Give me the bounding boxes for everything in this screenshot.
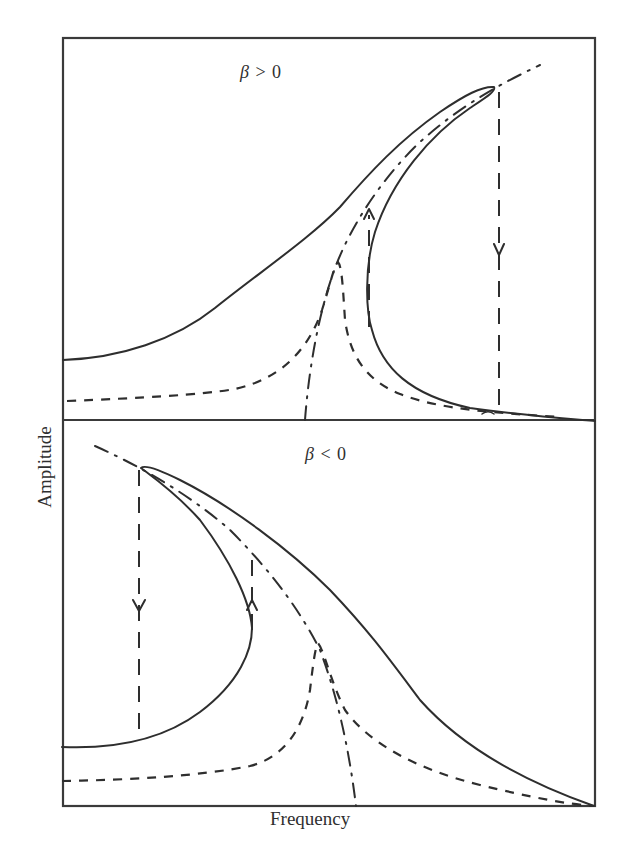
beta-relation: < 0 — [315, 444, 347, 464]
panel-softening — [62, 446, 594, 806]
panel-label-beta-positive: β > 0 — [240, 62, 282, 83]
frequency-response-figure: β > 0 β < 0 Amplitude Frequency — [0, 0, 632, 861]
backbone-curve — [305, 65, 540, 420]
panel-label-beta-negative: β < 0 — [305, 444, 347, 465]
y-axis-label: Amplitude — [34, 412, 56, 522]
nonlinear-response-curve — [62, 467, 594, 806]
plot-frame — [63, 38, 595, 806]
beta-symbol: β — [240, 62, 250, 82]
baseline-wiggle — [482, 412, 494, 414]
linear-response-curve — [67, 262, 560, 417]
nonlinear-response-curve — [63, 87, 595, 421]
beta-symbol: β — [305, 444, 315, 464]
arrow-down-icon — [494, 244, 504, 255]
figure-canvas — [0, 0, 632, 861]
beta-relation: > 0 — [250, 62, 282, 82]
backbone-curve — [95, 446, 356, 806]
x-axis-label: Frequency — [270, 808, 350, 830]
linear-response-curve — [62, 643, 594, 806]
arrow-up-icon — [247, 600, 257, 610]
panel-hardening — [63, 65, 595, 421]
